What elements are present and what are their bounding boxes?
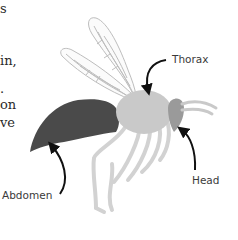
thorax-label: Thorax xyxy=(172,54,208,65)
thorax-arrow xyxy=(147,60,166,90)
head-label: Head xyxy=(192,175,219,186)
abdomen-arrow xyxy=(52,146,65,194)
antennae xyxy=(182,102,216,114)
head-arrow xyxy=(182,130,195,170)
thorax xyxy=(116,90,172,134)
abdomen-label: Abdomen xyxy=(2,190,52,201)
